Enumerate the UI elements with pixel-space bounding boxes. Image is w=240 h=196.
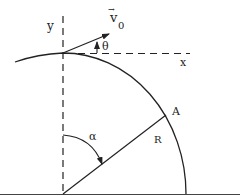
radius-line [63, 115, 166, 194]
theta-label: θ [102, 40, 109, 53]
point-a-label: A [171, 105, 181, 118]
diagram-svg: y → v 0 θ x A R α [0, 0, 240, 196]
velocity-label: v [109, 10, 118, 25]
y-axis-label: y [46, 19, 54, 33]
velocity-subscript: 0 [118, 20, 124, 31]
hemisphere-arc [15, 53, 186, 194]
x-axis-label: x [180, 56, 187, 69]
radius-label: R [154, 134, 162, 145]
alpha-label: α [89, 130, 97, 143]
projectile-hemisphere-diagram: y → v 0 θ x A R α [0, 0, 240, 196]
